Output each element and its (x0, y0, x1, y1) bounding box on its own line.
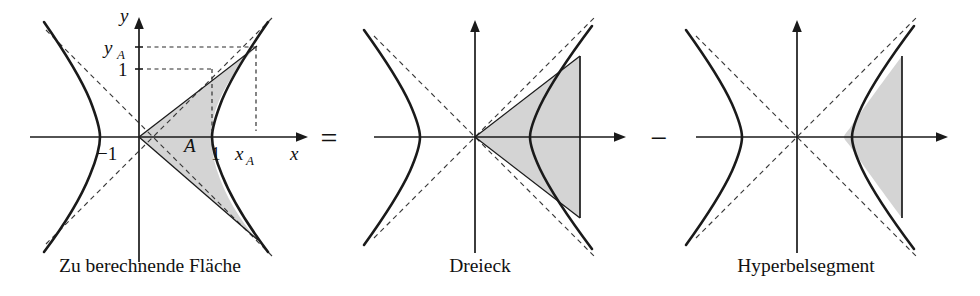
panel-area-caption: Zu berechnende Fläche (59, 255, 241, 276)
x-tick-label-one: 1 (211, 143, 221, 164)
x-tick-label-minus-one: −1 (97, 143, 117, 164)
x-axis-label: x (289, 143, 299, 164)
operator-equals: = (321, 121, 338, 154)
y-axis-arrow-icon (470, 20, 480, 32)
operator-minus: − (651, 121, 668, 154)
x-tick-label-xa: x A (234, 143, 254, 168)
panel-segment: Hyperbelsegment (686, 18, 948, 276)
svg-text:x: x (234, 143, 244, 164)
y-tick-label-one: 1 (118, 59, 128, 80)
panel-area: y x y A 1 −1 1 x A A Zu berechnende Fläc… (30, 5, 308, 276)
svg-text:A: A (245, 153, 254, 168)
region-label-a: A (182, 135, 196, 156)
panel-triangle: Dreieck (364, 18, 626, 276)
x-axis-arrow-icon (936, 132, 948, 142)
y-axis-label: y (118, 5, 129, 26)
x-axis-arrow-icon (296, 132, 308, 142)
svg-text:y: y (102, 37, 113, 58)
y-axis-arrow-icon (792, 20, 802, 32)
panel-triangle-caption: Dreieck (449, 255, 511, 276)
y-axis-arrow-icon (134, 17, 144, 29)
hyperbola-decomposition-figure: y x y A 1 −1 1 x A A Zu berechnende Fläc… (0, 0, 980, 296)
panel-segment-caption: Hyperbelsegment (737, 255, 875, 276)
x-axis-arrow-icon (614, 132, 626, 142)
